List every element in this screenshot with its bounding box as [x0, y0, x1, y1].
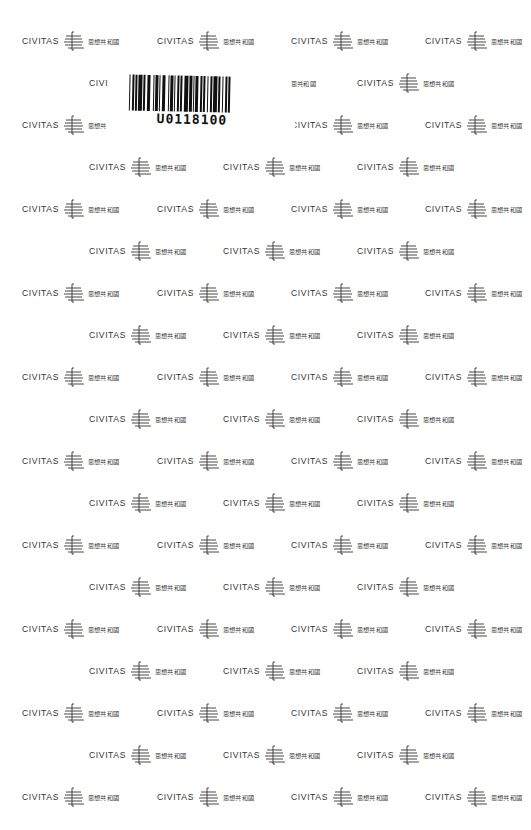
brand-latin: CIVITAS — [89, 498, 126, 508]
brand-chinese: 思想共和國 — [223, 625, 254, 634]
brand-latin: CIVITAS — [223, 330, 260, 340]
civitas-logo: CIVITAS思想共和國 — [89, 157, 186, 177]
brand-chinese: 思想共和國 — [155, 247, 186, 256]
brand-chinese: 思想共和國 — [88, 541, 119, 550]
brand-chinese: 思想共和國 — [423, 415, 454, 424]
brand-chinese: 思想共和國 — [357, 289, 388, 298]
civitas-harp-mark-icon — [332, 535, 354, 555]
barcode-number: U0118100 — [157, 111, 228, 127]
civitas-harp-mark-icon — [466, 199, 488, 219]
civitas-harp-mark-icon — [63, 703, 85, 723]
civitas-logo: CIVITAS思想共和國 — [157, 31, 254, 51]
civitas-logo: CIVITAS思想共和國 — [22, 283, 119, 303]
brand-chinese: 思想共和國 — [88, 457, 119, 466]
civitas-logo: CIVITAS思想共和國 — [22, 703, 119, 723]
civitas-harp-mark-icon — [332, 115, 354, 135]
brand-chinese: 思想共和國 — [423, 163, 454, 172]
civitas-logo: CIVITAS思想共和國 — [89, 661, 186, 681]
civitas-harp-mark-icon — [398, 73, 420, 93]
civitas-logo: 思共和國 — [291, 73, 316, 93]
civitas-logo: CIVITAS思想共和國 — [425, 619, 522, 639]
brand-chinese: 思想共和國 — [357, 793, 388, 802]
brand-latin: CIVITAS — [223, 666, 260, 676]
brand-latin: CIVITAS — [22, 120, 59, 130]
civitas-harp-mark-icon — [63, 787, 85, 807]
civitas-logo: CIVITAS思想共和國 — [425, 283, 522, 303]
brand-chinese: 思想共和國 — [223, 373, 254, 382]
brand-latin: CIVITAS — [157, 204, 194, 214]
civitas-logo: CIVITAS思想共和國 — [22, 199, 119, 219]
civitas-harp-mark-icon — [130, 241, 152, 261]
brand-chinese: 思想共和國 — [223, 457, 254, 466]
brand-latin: CIVITAS — [157, 792, 194, 802]
brand-latin: CIVITAS — [425, 792, 462, 802]
brand-latin: CIVITAS — [291, 624, 328, 634]
brand-latin: CIVITAS — [223, 162, 260, 172]
civitas-logo: CIVITAS思想共和國 — [89, 745, 186, 765]
brand-latin: CIVITAS — [357, 666, 394, 676]
brand-latin: CIVITAS — [425, 120, 462, 130]
brand-chinese: 思想共和國 — [491, 793, 522, 802]
brand-chinese: 思想共和國 — [357, 121, 388, 130]
civitas-harp-mark-icon — [332, 619, 354, 639]
brand-chinese: 思想共和國 — [423, 667, 454, 676]
brand-latin: CIVITAS — [357, 330, 394, 340]
brand-latin: CIVITAS — [89, 414, 126, 424]
brand-chinese: 思想共和國 — [357, 625, 388, 634]
brand-latin: CIVITAS — [223, 414, 260, 424]
civitas-harp-mark-icon — [198, 199, 220, 219]
brand-chinese-partial: 思共和國 — [291, 79, 316, 88]
civitas-harp-mark-icon — [130, 325, 152, 345]
civitas-logo: CIVITAS思想共和國 — [223, 745, 320, 765]
civitas-harp-mark-icon — [198, 283, 220, 303]
brand-latin: CIVITAS — [157, 36, 194, 46]
civitas-logo: CIVITAS思想共和國 — [157, 367, 254, 387]
civitas-logo: CIVITAS思想共和國 — [22, 619, 119, 639]
civitas-logo: CIVITAS思想共和國 — [357, 157, 454, 177]
civitas-harp-mark-icon — [63, 367, 85, 387]
brand-chinese: 思想共和國 — [223, 205, 254, 214]
brand-chinese: 思想共和國 — [357, 37, 388, 46]
brand-chinese: 思想共和國 — [88, 37, 119, 46]
civitas-harp-mark-icon — [63, 283, 85, 303]
civitas-harp-mark-icon — [466, 787, 488, 807]
brand-chinese: 思想共和國 — [423, 247, 454, 256]
brand-chinese: 思想共和國 — [491, 373, 522, 382]
civitas-logo: CIVITAS思想共和國 — [357, 241, 454, 261]
civitas-logo: CIVITAS思想共和國 — [22, 787, 119, 807]
civitas-harp-mark-icon — [398, 241, 420, 261]
brand-chinese: 思想共和國 — [491, 625, 522, 634]
civitas-harp-mark-icon — [398, 745, 420, 765]
civitas-logo: CIVITAS思想共和國 — [223, 325, 320, 345]
brand-latin: CIVITAS — [357, 582, 394, 592]
barcode-sticker: U0118100 — [126, 72, 273, 133]
civitas-harp-mark-icon — [332, 703, 354, 723]
civitas-logo: CIVITAS思想共和國 — [291, 31, 388, 51]
civitas-logo: CIVITAS思想共和國 — [89, 241, 186, 261]
civitas-harp-mark-icon — [398, 577, 420, 597]
brand-latin: CIVITAS — [157, 708, 194, 718]
brand-latin: CIVITAS — [223, 498, 260, 508]
brand-latin: CIVITAS — [425, 624, 462, 634]
brand-chinese: 思想共和國 — [423, 751, 454, 760]
civitas-harp-mark-icon — [63, 115, 85, 135]
civitas-logo: CIVITAS思想共和國 — [22, 451, 119, 471]
civitas-harp-mark-icon — [332, 451, 354, 471]
brand-chinese: 思想共和國 — [289, 499, 320, 508]
civitas-harp-mark-icon — [332, 199, 354, 219]
civitas-harp-mark-icon — [264, 493, 286, 513]
civitas-harp-mark-icon — [63, 619, 85, 639]
civitas-harp-mark-icon — [466, 283, 488, 303]
barcode-bars — [129, 75, 270, 114]
civitas-harp-mark-icon — [198, 787, 220, 807]
brand-latin-partial: CIVI — [89, 78, 108, 88]
brand-chinese: 思想共和國 — [88, 373, 119, 382]
civitas-logo: CIVITAS思想共和國 — [89, 577, 186, 597]
civitas-logo: CIVITAS思想共和國 — [22, 367, 119, 387]
civitas-logo: CIVITAS思想共和國 — [157, 787, 254, 807]
brand-chinese: 思想共和國 — [357, 205, 388, 214]
brand-latin: CIVITAS — [157, 540, 194, 550]
brand-latin: CIVITAS — [425, 540, 462, 550]
brand-latin: CIVITAS — [22, 624, 59, 634]
civitas-harp-mark-icon — [264, 325, 286, 345]
